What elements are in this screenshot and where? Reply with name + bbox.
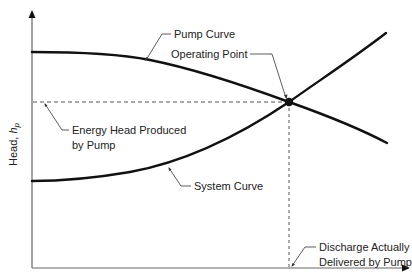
operating-point-callout: Operating Point <box>171 48 288 99</box>
system-curve-callout: System Curve <box>169 167 264 192</box>
y-axis-label: Head, hp <box>7 122 21 166</box>
energy-head-label-line1: Energy Head Produced <box>72 124 186 136</box>
energy-head-callout: Energy Head Produced by Pump <box>45 103 187 151</box>
operating-point-label: Operating Point <box>171 48 247 60</box>
pump-system-diagram: Head, hp Pump Curve Operating Point Ener… <box>0 0 412 278</box>
energy-head-label-line2: by Pump <box>72 139 115 151</box>
y-axis-arrow-icon <box>29 10 36 18</box>
discharge-callout: Discharge Actually Delivered by Pump <box>292 241 412 268</box>
pump-curve-label: Pump Curve <box>174 28 235 40</box>
operating-point-dot <box>285 98 293 106</box>
system-curve-label: System Curve <box>194 180 263 192</box>
y-axis <box>29 10 36 268</box>
discharge-label-line1: Discharge Actually <box>319 241 410 253</box>
discharge-label-line2: Delivered by Pump <box>319 256 412 268</box>
